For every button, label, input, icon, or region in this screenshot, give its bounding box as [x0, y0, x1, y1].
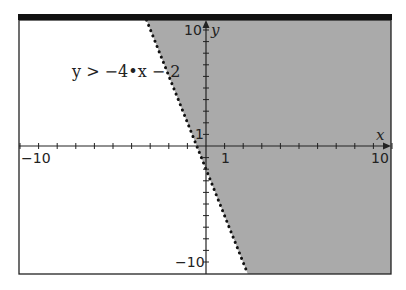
inequality-graph: −10 1 10 10 1 −10 x y y > −4•x − 2 [0, 0, 406, 290]
x-tick-label-neg10: −10 [21, 150, 51, 166]
x-tick-label-10: 10 [371, 150, 389, 166]
y-tick-label-10: 10 [184, 22, 202, 38]
y-tick-label-1: 1 [195, 126, 204, 142]
y-axis-label: y [210, 21, 220, 39]
inequality-annotation: y > −4•x − 2 [71, 62, 180, 81]
y-tick-label-neg10: −10 [175, 254, 205, 270]
x-tick-label-1: 1 [221, 150, 230, 166]
x-axis-label: x [376, 126, 385, 144]
top-border-bar [18, 14, 392, 20]
